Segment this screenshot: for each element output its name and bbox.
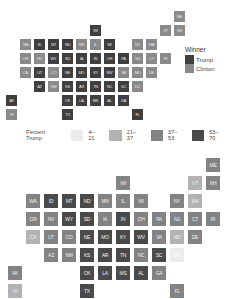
- state-tile-ak: AK: [8, 266, 22, 280]
- state-tile-hi: HI: [8, 284, 22, 298]
- state-tile-ct: CT: [146, 53, 157, 64]
- state-tile-nm: NM: [62, 248, 76, 262]
- state-tile-mo: MO: [76, 67, 87, 78]
- state-tile-de: DE: [146, 67, 157, 78]
- state-tile-sd: SD: [62, 53, 73, 64]
- state-tile-nc: NC: [134, 248, 148, 262]
- state-tile-va: VA: [118, 67, 129, 78]
- state-tile-co: CO: [62, 230, 76, 244]
- state-tile-il: IL: [116, 194, 130, 208]
- state-tile-ks: KS: [80, 248, 94, 262]
- state-tile-ak: AK: [6, 95, 17, 106]
- percent-trump-tile-map: MEWIVTNHWAIDMTNDMNILMINYMAORNVWYSDIAINOH…: [0, 150, 233, 299]
- legend-swatch-bin-1: [71, 130, 84, 141]
- state-tile-or: OR: [20, 53, 31, 64]
- state-tile-mt: MT: [62, 194, 76, 208]
- winner-legend-title: Winner: [185, 46, 215, 53]
- state-tile-sc: SC: [152, 248, 166, 262]
- state-tile-ne: NE: [80, 230, 94, 244]
- state-tile-ks: KS: [62, 81, 73, 92]
- state-tile-ky: KY: [116, 230, 130, 244]
- state-tile-vt: VT: [160, 25, 171, 36]
- state-tile-pa: PA: [152, 212, 166, 226]
- state-tile-ia: IA: [98, 212, 112, 226]
- state-tile-la: LA: [76, 95, 87, 106]
- state-tile-nj: NJ: [132, 53, 143, 64]
- legend-item-bin-3: 37–53: [151, 129, 182, 141]
- state-tile-ga: GA: [152, 266, 166, 280]
- state-tile-ca: CA: [20, 67, 31, 78]
- state-tile-wi: WI: [90, 25, 101, 36]
- state-tile-wa: WA: [20, 39, 31, 50]
- legend-item-bin-4: 53–70: [192, 129, 223, 141]
- state-tile-ri: RI: [206, 212, 220, 226]
- state-tile-ms: MS: [90, 95, 101, 106]
- state-tile-mn: MN: [98, 194, 112, 208]
- state-tile-nv: NV: [34, 53, 45, 64]
- state-tile-ne: NE: [62, 67, 73, 78]
- state-tile-in: IN: [90, 53, 101, 64]
- state-tile-tn: TN: [90, 81, 101, 92]
- state-tile-al: AL: [104, 95, 115, 106]
- state-tile-tx: TX: [62, 109, 73, 120]
- state-tile-id: ID: [34, 39, 45, 50]
- state-tile-de: DE: [188, 230, 202, 244]
- legend-label-trump: Trump: [196, 57, 213, 63]
- state-tile-me: ME: [206, 158, 220, 172]
- state-tile-ny: NY: [132, 39, 143, 50]
- state-tile-oh: OH: [134, 212, 148, 226]
- state-tile-tx: TX: [80, 284, 94, 298]
- state-tile-ar: AR: [76, 81, 87, 92]
- state-tile-me: ME: [174, 11, 185, 22]
- legend-swatch-clinton: [185, 64, 194, 73]
- legend-swatch-bin-2: [109, 130, 122, 141]
- state-tile-ga: GA: [118, 95, 129, 106]
- state-tile-pa: PA: [118, 53, 129, 64]
- legend-swatch-bin-4: [192, 130, 205, 141]
- state-tile-id: ID: [44, 194, 58, 208]
- state-tile-nh: NH: [174, 25, 185, 36]
- state-tile-mi: MI: [134, 194, 148, 208]
- state-tile-dc: DC: [132, 81, 143, 92]
- state-tile-nd: ND: [80, 194, 94, 208]
- legend-label-bin-4: 53–70: [209, 129, 223, 141]
- state-tile-co: CO: [48, 67, 59, 78]
- winner-legend: Winner Trump Clinton: [185, 46, 215, 73]
- state-tile-wv: WV: [104, 67, 115, 78]
- state-tile-ma: MA: [188, 194, 202, 208]
- legend-item-trump: Trump: [185, 55, 215, 64]
- state-tile-md: MD: [132, 67, 143, 78]
- state-tile-nj: NJ: [170, 212, 184, 226]
- state-tile-wi: WI: [116, 176, 130, 190]
- state-tile-fl: FL: [132, 109, 143, 120]
- state-tile-mn: MN: [76, 39, 87, 50]
- state-tile-dc: DC: [170, 248, 184, 262]
- state-tile-mo: MO: [98, 230, 112, 244]
- state-tile-va: VA: [152, 230, 166, 244]
- state-tile-ar: AR: [98, 248, 112, 262]
- state-tile-ky: KY: [90, 67, 101, 78]
- state-tile-mt: MT: [48, 39, 59, 50]
- state-tile-ri: RI: [160, 53, 171, 64]
- state-tile-md: MD: [170, 230, 184, 244]
- state-tile-ny: NY: [170, 194, 184, 208]
- legend-label-bin-2: 21–37: [127, 129, 141, 141]
- percent-legend-title: Percent Trump: [26, 129, 59, 141]
- legend-item-bin-1: 4–21: [71, 129, 99, 141]
- state-tile-in: IN: [116, 212, 130, 226]
- state-tile-sd: SD: [80, 212, 94, 226]
- state-tile-nd: ND: [62, 39, 73, 50]
- state-tile-ma: MA: [146, 39, 157, 50]
- state-tile-tn: TN: [116, 248, 130, 262]
- state-tile-nm: NM: [48, 81, 59, 92]
- legend-label-bin-3: 37–53: [168, 129, 182, 141]
- state-tile-hi: HI: [6, 109, 17, 120]
- state-tile-or: OR: [26, 212, 40, 226]
- state-tile-wy: WY: [48, 53, 59, 64]
- state-tile-ut: UT: [34, 67, 45, 78]
- state-tile-nh: NH: [206, 176, 220, 190]
- state-tile-ut: UT: [44, 230, 58, 244]
- state-tile-oh: OH: [104, 53, 115, 64]
- state-tile-ct: CT: [188, 212, 202, 226]
- state-tile-nc: NC: [104, 81, 115, 92]
